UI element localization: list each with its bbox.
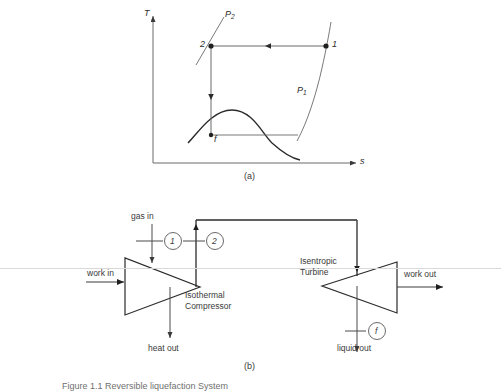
node-f-label: f [375,327,377,336]
process-1-to-2-arrowhead [265,43,271,49]
stream-label-gas-in: gas in [131,212,154,221]
isobar-p1-curve [297,22,331,141]
turbine-inlet-arrowhead [354,266,360,272]
figure-bottom-caption: Figure 1.1 Reversible liquefaction Syste… [62,381,228,391]
axis-label-temperature: T [144,9,150,18]
caption-a: (a) [244,172,255,181]
axis-label-entropy: s [360,157,365,166]
caption-b: (b) [244,362,255,371]
isobar-label-p1: P1 [297,86,307,96]
state-point-1-dot [323,43,328,48]
stream-label-liquid-out: liquid out [337,344,371,353]
compressor-discharge-arrowhead [193,224,199,230]
compressor-label-line2: Compressor [185,302,231,311]
process-2-to-f-arrowhead [208,94,214,100]
turbine-label-line2: Turbine [300,268,329,277]
isobar-p2-sub: 2 [231,13,235,20]
compressor-label-line1: Isothermal [185,291,225,300]
state-point-f-dot [209,133,213,137]
ts-axes [153,16,356,163]
isobar-p1-sub: 1 [303,89,307,96]
stream-label-work-out: work out [404,270,436,279]
isobar-label-p2: P2 [225,10,235,20]
stream-label-heat-out: heat out [148,344,179,353]
stream-label-work-in: work in [87,269,114,278]
state-point-2-dot [208,43,213,48]
node-1-label: 1 [170,237,175,246]
turbine-symbol [322,262,397,313]
state-point-2-label: 2 [200,40,205,49]
node-2-label: 2 [212,237,217,246]
state-point-1-label: 1 [332,40,337,49]
state-point-f-label: f [214,135,217,144]
turbine-label-line1: Isentropic [300,257,337,266]
